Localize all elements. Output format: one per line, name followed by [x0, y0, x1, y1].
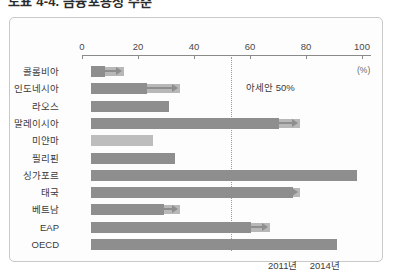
x-axis-line [82, 55, 371, 56]
x-tick-100 [362, 55, 363, 59]
bar-row [10, 239, 382, 250]
bar-2011 [91, 118, 279, 129]
arrow-head-icon [292, 119, 298, 127]
arrow-head-icon [172, 205, 178, 213]
x-tick-80 [306, 55, 307, 59]
chart-panel: 020406080100 (%) 아세안 50% 콜롬비아인도네시아라오스말레이… [9, 17, 383, 262]
bar-row [10, 66, 382, 77]
legend-item-2011: 2011년 [268, 258, 297, 272]
x-tick-0 [82, 55, 83, 59]
bar-row [10, 101, 382, 112]
arrow-head-icon [172, 84, 178, 92]
bar-2011 [91, 83, 147, 94]
bar-2011 [91, 187, 293, 198]
bar-row [10, 118, 382, 129]
x-tick-label-100: 100 [354, 41, 370, 52]
arrow-head-icon [292, 188, 298, 196]
x-tick-label-80: 80 [301, 41, 312, 52]
x-tick-label-40: 40 [189, 41, 200, 52]
bar-2011 [91, 170, 357, 181]
arrow-head-icon [262, 223, 268, 231]
bar-2011 [91, 66, 105, 77]
plot-area: 020406080100 (%) 아세안 50% 콜롬비아인도네시아라오스말레이… [10, 18, 382, 261]
bar-row [10, 204, 382, 215]
bar-row [10, 222, 382, 233]
x-tick-label-0: 0 [79, 41, 84, 52]
bar-2014 [91, 135, 153, 146]
x-tick-40 [194, 55, 195, 59]
bar-row [10, 153, 382, 164]
bar-row [10, 135, 382, 146]
x-tick-label-60: 60 [245, 41, 256, 52]
bar-2011 [91, 153, 175, 164]
chart-legend: 2011년 2014년 [268, 258, 340, 272]
bar-row [10, 83, 382, 94]
bar-row [10, 187, 382, 198]
bar-2011 [91, 204, 164, 215]
x-tick-label-20: 20 [133, 41, 144, 52]
legend-item-2014: 2014년 [310, 258, 340, 272]
bar-2011 [91, 101, 169, 112]
x-tick-20 [138, 55, 139, 59]
x-tick-60 [250, 55, 251, 59]
bar-2011 [91, 239, 337, 250]
bar-2011 [91, 222, 251, 233]
bar-row [10, 170, 382, 181]
arrow-head-icon [116, 67, 122, 75]
chart-title: 도표 4-4. 금융포용성 수준 [8, 0, 308, 9]
